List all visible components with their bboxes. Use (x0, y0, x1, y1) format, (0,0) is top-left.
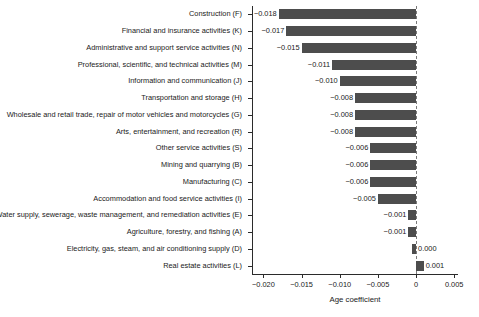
x-axis-tick-label: −0.020 (252, 280, 275, 289)
category-label: Real estate activities (L) (163, 258, 248, 274)
y-axis-tick (248, 98, 252, 99)
category-label: Mining and quarrying (B) (161, 157, 248, 173)
category-label: Electricity, gas, steam, and air conditi… (67, 241, 248, 257)
bar (412, 244, 416, 254)
bar-value-label: −0.001 (384, 224, 407, 240)
y-axis-tick (248, 182, 252, 183)
category-label: Accommodation and food service activitie… (93, 191, 248, 207)
bar (332, 60, 416, 70)
x-axis-tick (378, 274, 379, 278)
bar (355, 110, 416, 120)
bar (355, 93, 416, 103)
x-axis-tick (454, 274, 455, 278)
bar-value-label: −0.015 (277, 40, 300, 56)
bar (286, 26, 416, 36)
category-label: Construction (F) (189, 6, 248, 22)
x-axis-title: Age coefficient (252, 295, 458, 304)
plot-area: −0.018−0.017−0.015−0.011−0.010−0.008−0.0… (252, 6, 458, 274)
y-axis-tick (248, 65, 252, 66)
bar (378, 194, 416, 204)
y-axis-tick (248, 81, 252, 82)
bar-value-label: −0.008 (330, 90, 353, 106)
bar-value-label: 0.000 (418, 241, 437, 257)
bar (370, 177, 416, 187)
y-axis-tick (248, 148, 252, 149)
bar (302, 43, 416, 53)
bar-value-label: −0.018 (254, 6, 277, 22)
category-label: Agriculture, forestry, and fishing (A) (127, 224, 248, 240)
y-axis-tick (248, 165, 252, 166)
bar-value-label: −0.008 (330, 107, 353, 123)
y-axis-tick (248, 266, 252, 267)
bar-value-label: −0.006 (345, 140, 368, 156)
category-axis-labels: Construction (F)Financial and insurance … (0, 6, 248, 274)
y-axis-tick (248, 249, 252, 250)
bar-value-label: −0.005 (353, 191, 376, 207)
bar (370, 160, 416, 170)
x-axis-tick (302, 274, 303, 278)
x-axis-tick-label: 0 (414, 280, 418, 289)
category-label: Wholesale and retail trade, repair of mo… (7, 107, 248, 123)
bar (370, 143, 416, 153)
bar-value-label: −0.008 (330, 124, 353, 140)
x-axis-tick-label: −0.005 (366, 280, 389, 289)
x-axis-tick (416, 274, 417, 278)
category-label: Manufacturing (C) (183, 174, 248, 190)
x-axis-tick (340, 274, 341, 278)
bar-chart: Construction (F)Financial and insurance … (0, 0, 479, 317)
category-label: Financial and insurance activities (K) (122, 23, 248, 39)
bar (408, 227, 416, 237)
category-label: Professional, scientific, and technical … (78, 57, 248, 73)
bar (416, 261, 424, 271)
x-axis-tick-label: −0.015 (290, 280, 313, 289)
y-axis-tick (248, 215, 252, 216)
bar-value-label: −0.006 (345, 174, 368, 190)
y-axis-tick (248, 232, 252, 233)
zero-reference-line (416, 6, 417, 274)
bar (340, 76, 416, 86)
x-axis-spine (252, 274, 458, 275)
bar-value-label: −0.017 (262, 23, 285, 39)
bar (355, 127, 416, 137)
category-label: Water supply, sewerage, waste management… (0, 207, 248, 223)
x-axis-tick-label: 0.005 (445, 280, 464, 289)
y-axis-tick (248, 115, 252, 116)
bar-value-label: −0.001 (384, 207, 407, 223)
y-axis-tick (248, 48, 252, 49)
y-axis-tick (248, 132, 252, 133)
x-axis-tick-label: −0.010 (328, 280, 351, 289)
category-label: Other service activities (S) (156, 140, 248, 156)
y-axis-tick (248, 14, 252, 15)
category-label: Administrative and support service activ… (86, 40, 248, 56)
category-label: Transportation and storage (H) (141, 90, 248, 106)
bar-value-label: −0.011 (308, 57, 330, 73)
category-label: Arts, entertainment, and recreation (R) (116, 124, 248, 140)
bar-value-label: −0.006 (345, 157, 368, 173)
bar-value-label: −0.010 (315, 73, 338, 89)
category-label: Information and communication (J) (128, 73, 248, 89)
bar (279, 9, 416, 19)
bar (408, 210, 416, 220)
x-axis-tick (263, 274, 264, 278)
y-axis-spine (252, 6, 253, 274)
y-axis-tick (248, 31, 252, 32)
y-axis-tick (248, 199, 252, 200)
bar-value-label: 0.001 (426, 258, 445, 274)
